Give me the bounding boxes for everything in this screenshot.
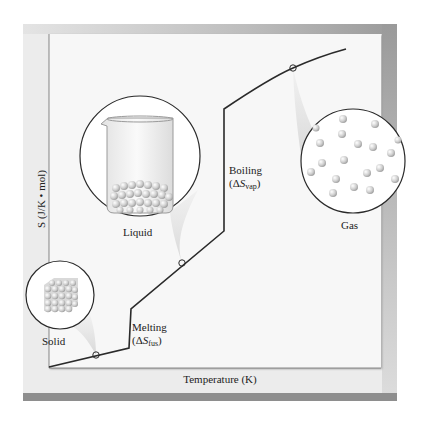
liquid-label: Liquid bbox=[123, 226, 152, 239]
x-axis-label: Temperature (K) bbox=[160, 373, 280, 385]
boiling-annotation: Boiling (ΔSvap) bbox=[229, 164, 262, 193]
melting-delta: (ΔSfus) bbox=[132, 334, 167, 350]
y-axis-label: S (J/K • mol) bbox=[35, 144, 47, 254]
entropy-curve bbox=[49, 49, 346, 367]
vap-subscript: vap bbox=[245, 182, 257, 191]
scattered-particles-icon bbox=[301, 109, 405, 213]
gas-label: Gas bbox=[341, 219, 358, 232]
delta-suffix: ) bbox=[158, 334, 162, 346]
boiling-label: Boiling bbox=[229, 164, 262, 177]
fus-subscript: fus bbox=[148, 339, 158, 348]
solid-label: Solid bbox=[42, 335, 65, 348]
delta-suffix: ) bbox=[257, 177, 261, 189]
delta-prefix: (Δ bbox=[132, 334, 143, 346]
cubic-lattice-icon bbox=[26, 261, 94, 329]
melting-label: Melting bbox=[132, 321, 167, 334]
boiling-delta: (ΔSvap) bbox=[229, 177, 262, 193]
entropy-diagram bbox=[0, 0, 424, 425]
delta-prefix: (Δ bbox=[229, 177, 240, 189]
melting-annotation: Melting (ΔSfus) bbox=[132, 321, 167, 350]
beaker-with-spheres-icon bbox=[80, 96, 200, 216]
